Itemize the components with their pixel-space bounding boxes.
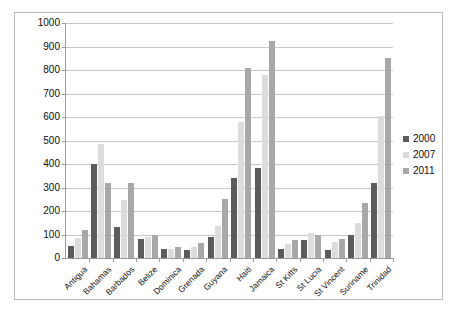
bar — [339, 239, 345, 258]
legend-label-2000: 2000 — [413, 134, 435, 144]
bar-group — [276, 23, 299, 258]
bar-group — [66, 23, 89, 258]
bar — [278, 249, 284, 258]
bar-group — [323, 23, 346, 258]
bar — [255, 168, 261, 258]
bar — [325, 250, 331, 258]
bar — [222, 199, 228, 258]
legend-label-2011: 2011 — [413, 166, 435, 176]
y-axis-tick-mark — [62, 258, 66, 259]
legend-item-2007: 2007 — [403, 147, 449, 163]
bar-group — [300, 23, 323, 258]
x-axis-tick-mark — [89, 258, 90, 262]
bar-group — [113, 23, 136, 258]
x-axis-tick-mark — [136, 258, 137, 262]
bar — [98, 144, 104, 258]
y-axis-tick-label: 300 — [43, 183, 60, 193]
bar — [238, 122, 244, 258]
bar — [215, 226, 221, 258]
x-axis-tick-mark — [206, 258, 207, 262]
legend-item-2000: 2000 — [403, 131, 449, 147]
x-axis-tick-mark — [253, 258, 254, 262]
bar — [245, 68, 251, 258]
x-axis-tick-mark — [323, 258, 324, 262]
bar-group — [346, 23, 369, 258]
bar — [355, 223, 361, 258]
legend-swatch-icon-2007 — [403, 152, 409, 158]
legend-item-2011: 2011 — [403, 163, 449, 179]
bar — [175, 247, 181, 258]
bar — [269, 41, 275, 258]
bar — [231, 178, 237, 258]
bar-group — [183, 23, 206, 258]
y-axis-tick-label: 600 — [43, 112, 60, 122]
bar — [82, 230, 88, 258]
bar — [75, 238, 81, 258]
chart-screenshot: 01002003004005006007008009001000 2000 20… — [0, 0, 462, 319]
x-axis-tick-mark — [346, 258, 347, 262]
chart-frame: 01002003004005006007008009001000 2000 20… — [14, 12, 443, 300]
x-axis-tick-label: Trinidad — [365, 265, 393, 293]
bar — [168, 249, 174, 258]
legend-swatch-icon-2000 — [403, 136, 409, 142]
bar — [128, 183, 134, 258]
bar — [198, 243, 204, 258]
bar-group — [370, 23, 393, 258]
bar — [145, 237, 151, 258]
plot-area: 01002003004005006007008009001000 — [65, 23, 393, 259]
bar — [161, 249, 167, 258]
x-axis-tick-mark — [159, 258, 160, 262]
bar — [308, 233, 314, 258]
y-axis-tick-label: 900 — [43, 42, 60, 52]
bar — [68, 246, 74, 258]
legend-label-2007: 2007 — [413, 150, 435, 160]
y-axis-tick-label: 500 — [43, 136, 60, 146]
bar — [332, 242, 338, 258]
bar — [191, 247, 197, 258]
bar-group — [159, 23, 182, 258]
bar — [285, 244, 291, 258]
bar — [138, 239, 144, 258]
x-axis-tick-mark — [276, 258, 277, 262]
x-axis-tick-mark — [183, 258, 184, 262]
y-axis-tick-label: 100 — [43, 230, 60, 240]
bar-group — [89, 23, 112, 258]
bar — [121, 200, 127, 258]
x-axis-tick-mark — [230, 258, 231, 262]
chart-legend: 2000 2007 2011 — [403, 131, 449, 179]
legend-swatch-icon-2011 — [403, 168, 409, 174]
bar — [114, 227, 120, 258]
bar — [348, 235, 354, 259]
bar — [378, 116, 384, 258]
bar — [184, 250, 190, 258]
x-axis-tick-label: Haiti — [235, 265, 253, 283]
bar — [301, 240, 307, 258]
x-axis-tick-mark — [113, 258, 114, 262]
bar-group — [230, 23, 253, 258]
y-axis-tick-label: 0 — [54, 253, 60, 263]
bar-group — [253, 23, 276, 258]
bar — [208, 237, 214, 258]
x-axis-tick-mark — [370, 258, 371, 262]
bar — [362, 203, 368, 258]
y-axis-tick-label: 1000 — [38, 18, 60, 28]
bar — [292, 240, 298, 258]
bar — [385, 58, 391, 258]
y-axis-tick-label: 200 — [43, 206, 60, 216]
y-axis-tick-label: 400 — [43, 159, 60, 169]
bar — [315, 235, 321, 259]
bar — [152, 235, 158, 259]
bar — [371, 183, 377, 258]
x-axis-tick-mark — [300, 258, 301, 262]
y-axis-tick-label: 800 — [43, 65, 60, 75]
bar — [262, 75, 268, 258]
bar-group — [136, 23, 159, 258]
y-axis-tick-label: 700 — [43, 89, 60, 99]
x-axis-tick-mark — [393, 258, 394, 262]
bar — [105, 183, 111, 258]
x-axis-tick-label: Guyana — [202, 265, 229, 292]
bar — [91, 164, 97, 258]
bar-group — [206, 23, 229, 258]
